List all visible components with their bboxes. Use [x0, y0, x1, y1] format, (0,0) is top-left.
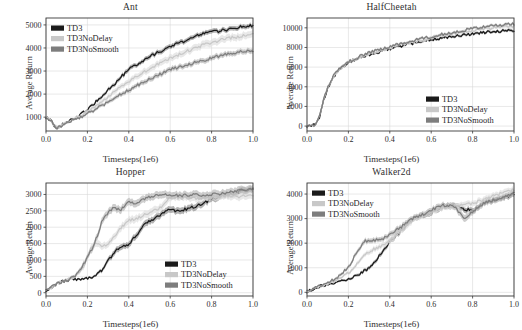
y-tick-label: 2000	[287, 239, 303, 248]
x-tick-label: 0.4	[124, 300, 134, 309]
x-tick-label: 0.4	[124, 135, 134, 144]
x-tick-label: 1.0	[509, 300, 519, 309]
y-tick-label: 1000	[26, 113, 42, 122]
x-tick-label: 1.0	[248, 135, 258, 144]
x-tick-label: 0.6	[165, 300, 175, 309]
x-axis-label-halfcheetah: Timesteps(1e6)	[261, 154, 522, 164]
x-tick-label: 0.4	[385, 300, 395, 309]
x-tick-label: 0.8	[207, 300, 217, 309]
plot-area-walker2d: 0.00.20.40.60.81.001000200030004000TD3TD…	[261, 165, 522, 330]
y-tick-label: 1500	[26, 239, 42, 248]
x-tick-label: 0.0	[302, 135, 312, 144]
legend-label: TD3	[181, 260, 196, 269]
y-tick-label: 1000	[26, 256, 42, 265]
y-tick-label: 3000	[26, 190, 42, 199]
legend-label: TD3NoDelay	[67, 34, 113, 43]
y-tick-label: 10000	[283, 24, 303, 33]
legend-label: TD3	[442, 95, 457, 104]
legend: TD3TD3NoDelayTD3NoSmooth	[426, 95, 494, 125]
legend-label: TD3NoDelay	[442, 105, 488, 114]
x-axis-label-walker2d: Timesteps(1e6)	[261, 319, 522, 329]
y-tick-label: 2000	[287, 102, 303, 111]
y-tick-label: 6000	[287, 63, 303, 72]
x-tick-label: 0.8	[468, 135, 478, 144]
y-tick-label: 3000	[287, 214, 303, 223]
y-tick-label: 3000	[26, 67, 42, 76]
y-tick-label: 0	[299, 288, 303, 297]
y-tick-label: 0	[38, 289, 42, 298]
x-tick-label: 0.2	[343, 135, 353, 144]
plot-area-halfcheetah: 0.00.20.40.60.81.00200040006000800010000…	[261, 0, 522, 165]
panel-hopper: Hopper Average Return 0.00.20.40.60.81.0…	[0, 165, 261, 330]
legend-label: TD3	[328, 189, 343, 198]
legend-label: TD3NoSmooth	[442, 116, 494, 125]
x-tick-label: 0.2	[82, 300, 92, 309]
legend: TD3TD3NoDelayTD3NoSmooth	[312, 189, 380, 219]
legend-label: TD3	[67, 24, 82, 33]
legend: TD3TD3NoDelayTD3NoSmooth	[51, 24, 119, 54]
panel-ant: Ant Average Return 0.00.20.40.60.81.0100…	[0, 0, 261, 165]
plot-area-ant: 0.00.20.40.60.81.010002000300040005000TD…	[0, 0, 261, 165]
x-tick-label: 0.6	[165, 135, 175, 144]
legend-label: TD3NoDelay	[328, 199, 374, 208]
x-tick-label: 0.6	[426, 300, 436, 309]
x-axis-label-hopper: Timesteps(1e6)	[0, 319, 261, 329]
panel-walker2d: Walker2d Average Return 0.00.20.40.60.81…	[261, 165, 522, 330]
x-tick-label: 0.0	[41, 300, 51, 309]
x-tick-label: 0.6	[426, 135, 436, 144]
x-tick-label: 0.2	[82, 135, 92, 144]
y-tick-label: 2000	[26, 223, 42, 232]
y-tick-label: 500	[30, 272, 42, 281]
x-tick-label: 0.8	[207, 135, 217, 144]
y-tick-label: 1000	[287, 264, 303, 273]
x-tick-label: 0.8	[468, 300, 478, 309]
x-tick-label: 0.0	[41, 135, 51, 144]
plot-area-hopper: 0.00.20.40.60.81.00500100015002000250030…	[0, 165, 261, 330]
x-tick-label: 0.0	[302, 300, 312, 309]
y-tick-label: 5000	[26, 21, 42, 30]
y-tick-label: 2500	[26, 207, 42, 216]
x-tick-label: 0.2	[343, 300, 353, 309]
y-tick-label: 4000	[26, 44, 42, 53]
panel-halfcheetah: HalfCheetah Average Return 0.00.20.40.60…	[261, 0, 522, 165]
x-tick-label: 0.4	[385, 135, 395, 144]
legend-label: TD3NoSmooth	[67, 45, 119, 54]
legend-label: TD3NoSmooth	[328, 210, 380, 219]
legend-label: TD3NoDelay	[181, 270, 227, 279]
x-tick-label: 1.0	[248, 300, 258, 309]
y-tick-label: 8000	[287, 43, 303, 52]
legend: TD3TD3NoDelayTD3NoSmooth	[165, 260, 233, 290]
legend-label: TD3NoSmooth	[181, 281, 233, 290]
x-axis-label-ant: Timesteps(1e6)	[0, 154, 261, 164]
x-tick-label: 1.0	[509, 135, 519, 144]
y-tick-label: 4000	[287, 83, 303, 92]
y-tick-label: 2000	[26, 90, 42, 99]
y-tick-label: 0	[299, 122, 303, 131]
figure-grid: Ant Average Return 0.00.20.40.60.81.0100…	[0, 0, 522, 330]
y-tick-label: 4000	[287, 190, 303, 199]
